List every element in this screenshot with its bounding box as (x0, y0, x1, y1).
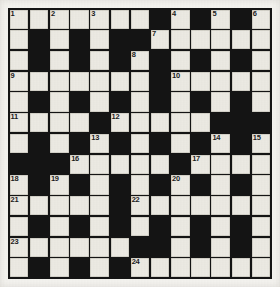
crossword-grid[interactable]: 123456789101112131415161718192021222324 (8, 8, 272, 279)
crossword-letter-cell[interactable] (211, 175, 230, 194)
crossword-letter-cell[interactable] (131, 134, 150, 153)
crossword-letter-cell[interactable] (50, 51, 69, 70)
crossword-letter-cell[interactable] (252, 175, 271, 194)
crossword-letter-cell[interactable]: 13 (90, 134, 109, 153)
crossword-letter-cell[interactable]: 9 (10, 72, 29, 91)
crossword-letter-cell[interactable] (232, 72, 251, 91)
crossword-letter-cell[interactable] (50, 258, 69, 277)
crossword-letter-cell[interactable] (232, 30, 251, 49)
crossword-letter-cell[interactable]: 16 (70, 155, 89, 174)
crossword-letter-cell[interactable]: 17 (191, 155, 210, 174)
crossword-letter-cell[interactable] (10, 217, 29, 236)
crossword-letter-cell[interactable] (131, 10, 150, 29)
crossword-letter-cell[interactable] (252, 258, 271, 277)
crossword-letter-cell[interactable]: 4 (171, 10, 190, 29)
crossword-letter-cell[interactable] (171, 113, 190, 132)
crossword-letter-cell[interactable] (131, 155, 150, 174)
crossword-letter-cell[interactable] (211, 51, 230, 70)
crossword-letter-cell[interactable]: 11 (10, 113, 29, 132)
crossword-letter-cell[interactable] (50, 113, 69, 132)
crossword-letter-cell[interactable] (131, 217, 150, 236)
crossword-letter-cell[interactable]: 7 (151, 30, 170, 49)
crossword-letter-cell[interactable] (50, 217, 69, 236)
crossword-letter-cell[interactable] (70, 196, 89, 215)
crossword-letter-cell[interactable] (10, 30, 29, 49)
crossword-letter-cell[interactable] (70, 10, 89, 29)
crossword-letter-cell[interactable]: 1 (10, 10, 29, 29)
crossword-letter-cell[interactable] (90, 238, 109, 257)
crossword-letter-cell[interactable] (191, 72, 210, 91)
crossword-letter-cell[interactable] (252, 217, 271, 236)
crossword-letter-cell[interactable] (50, 72, 69, 91)
crossword-letter-cell[interactable] (131, 72, 150, 91)
crossword-letter-cell[interactable] (111, 238, 130, 257)
crossword-letter-cell[interactable] (70, 238, 89, 257)
crossword-letter-cell[interactable] (232, 196, 251, 215)
crossword-letter-cell[interactable] (191, 196, 210, 215)
crossword-letter-cell[interactable] (171, 196, 190, 215)
crossword-letter-cell[interactable] (30, 113, 49, 132)
crossword-letter-cell[interactable] (171, 134, 190, 153)
crossword-letter-cell[interactable]: 15 (252, 134, 271, 153)
crossword-letter-cell[interactable]: 24 (131, 258, 150, 277)
crossword-letter-cell[interactable] (151, 113, 170, 132)
crossword-letter-cell[interactable] (131, 175, 150, 194)
crossword-letter-cell[interactable] (90, 196, 109, 215)
crossword-letter-cell[interactable] (252, 92, 271, 111)
crossword-letter-cell[interactable] (252, 196, 271, 215)
crossword-letter-cell[interactable] (50, 92, 69, 111)
crossword-letter-cell[interactable] (10, 134, 29, 153)
crossword-letter-cell[interactable] (171, 51, 190, 70)
crossword-letter-cell[interactable] (30, 196, 49, 215)
crossword-letter-cell[interactable] (171, 238, 190, 257)
crossword-letter-cell[interactable] (111, 72, 130, 91)
crossword-letter-cell[interactable] (90, 217, 109, 236)
crossword-letter-cell[interactable] (211, 30, 230, 49)
crossword-letter-cell[interactable] (211, 72, 230, 91)
crossword-letter-cell[interactable] (171, 258, 190, 277)
crossword-letter-cell[interactable] (131, 113, 150, 132)
crossword-letter-cell[interactable]: 12 (111, 113, 130, 132)
crossword-letter-cell[interactable] (10, 258, 29, 277)
crossword-letter-cell[interactable] (211, 196, 230, 215)
crossword-letter-cell[interactable] (50, 196, 69, 215)
crossword-letter-cell[interactable] (252, 30, 271, 49)
crossword-letter-cell[interactable]: 18 (10, 175, 29, 194)
crossword-letter-cell[interactable] (252, 51, 271, 70)
crossword-letter-cell[interactable] (211, 92, 230, 111)
crossword-letter-cell[interactable] (50, 238, 69, 257)
crossword-letter-cell[interactable] (50, 30, 69, 49)
crossword-letter-cell[interactable] (191, 30, 210, 49)
crossword-letter-cell[interactable]: 10 (171, 72, 190, 91)
crossword-letter-cell[interactable] (252, 238, 271, 257)
crossword-letter-cell[interactable]: 3 (90, 10, 109, 29)
crossword-letter-cell[interactable] (111, 155, 130, 174)
crossword-letter-cell[interactable] (70, 113, 89, 132)
crossword-letter-cell[interactable] (211, 155, 230, 174)
crossword-letter-cell[interactable] (90, 175, 109, 194)
crossword-letter-cell[interactable] (90, 155, 109, 174)
crossword-letter-cell[interactable] (252, 155, 271, 174)
crossword-letter-cell[interactable] (70, 72, 89, 91)
crossword-letter-cell[interactable]: 21 (10, 196, 29, 215)
crossword-letter-cell[interactable] (151, 196, 170, 215)
crossword-letter-cell[interactable]: 19 (50, 175, 69, 194)
crossword-letter-cell[interactable]: 2 (50, 10, 69, 29)
crossword-letter-cell[interactable] (151, 258, 170, 277)
crossword-letter-cell[interactable]: 20 (171, 175, 190, 194)
crossword-letter-cell[interactable] (211, 258, 230, 277)
crossword-letter-cell[interactable] (171, 92, 190, 111)
crossword-letter-cell[interactable]: 22 (131, 196, 150, 215)
crossword-letter-cell[interactable] (191, 113, 210, 132)
crossword-letter-cell[interactable]: 14 (211, 134, 230, 153)
crossword-letter-cell[interactable] (171, 30, 190, 49)
crossword-letter-cell[interactable] (30, 72, 49, 91)
crossword-letter-cell[interactable]: 23 (10, 238, 29, 257)
crossword-letter-cell[interactable] (90, 72, 109, 91)
crossword-letter-cell[interactable] (191, 258, 210, 277)
crossword-letter-cell[interactable] (90, 51, 109, 70)
crossword-letter-cell[interactable]: 6 (252, 10, 271, 29)
crossword-letter-cell[interactable] (30, 10, 49, 29)
crossword-letter-cell[interactable] (90, 258, 109, 277)
crossword-letter-cell[interactable] (232, 155, 251, 174)
